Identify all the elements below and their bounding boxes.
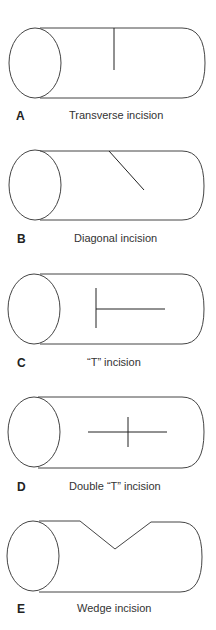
cylinder-wedge: [7, 521, 202, 592]
panel-letter-d: D: [17, 480, 26, 494]
panel-letter-c: C: [17, 356, 26, 370]
cylinder-diagonal: [9, 150, 204, 220]
cylinder-transverse: [9, 28, 205, 98]
panel-caption-a: Transverse incision: [69, 109, 163, 121]
incision-line: [109, 151, 144, 190]
panel-letter-b: B: [17, 232, 26, 246]
panel-letter-a: A: [16, 109, 25, 123]
panel-caption-d: Double “T” incision: [69, 480, 161, 492]
panel-letter-e: E: [17, 602, 25, 616]
panel-caption-b: Diagonal incision: [74, 232, 157, 244]
panel-caption-e: Wedge incision: [77, 602, 151, 614]
cylinder-t: [8, 274, 204, 344]
panel-caption-c: “T” incision: [87, 356, 141, 368]
incision-diagrams: [0, 0, 216, 630]
cylinder-double-t: [8, 397, 204, 468]
